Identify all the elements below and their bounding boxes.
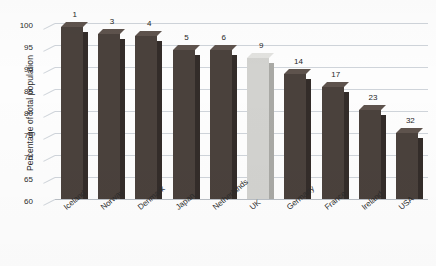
- y-axis-tick-label: 100: [7, 21, 33, 30]
- bar-top-face: [322, 82, 349, 87]
- y-axis-tick-label: 90: [7, 65, 33, 74]
- bar: [322, 87, 344, 199]
- bar-value-label: 1: [60, 10, 90, 19]
- bar-top-face: [61, 22, 88, 27]
- y-axis-tick-label: 85: [7, 87, 33, 96]
- bar-top-face: [135, 31, 162, 36]
- bar: [173, 50, 195, 199]
- bar-top-face: [247, 53, 274, 58]
- y-axis-tick-label: 65: [7, 175, 33, 184]
- axis-tick-stub: [43, 111, 55, 118]
- bar: [135, 36, 157, 199]
- bar: [61, 27, 83, 199]
- bar-value-label: 3: [97, 17, 127, 26]
- bar: [98, 34, 120, 199]
- bar: [359, 110, 381, 199]
- bar: [396, 133, 418, 199]
- bar-front-face: [98, 34, 120, 199]
- axis-tick-stub: [43, 177, 55, 184]
- bar-side-face: [232, 55, 237, 199]
- bar-front-face: [247, 58, 269, 199]
- axis-tick-stub: [43, 199, 55, 206]
- bar-side-face: [157, 41, 162, 199]
- bar-chart: Percentage of total population 100959085…: [0, 0, 436, 266]
- bar-front-face: [210, 50, 232, 199]
- bar-front-face: [61, 27, 83, 199]
- y-axis-tick-label: 75: [7, 131, 33, 140]
- bar-value-label: 32: [395, 116, 425, 125]
- bar-value-label: 14: [283, 57, 313, 66]
- bar-side-face: [195, 55, 200, 199]
- axis-tick-stub: [43, 155, 55, 162]
- y-axis-tick-label: 60: [7, 197, 33, 206]
- bar-value-label: 23: [358, 93, 388, 102]
- bar-side-face: [418, 138, 423, 199]
- bar-front-face: [173, 50, 195, 199]
- axis-tick-stub: [43, 133, 55, 140]
- bar-value-label: 5: [172, 33, 202, 42]
- bar-side-face: [83, 32, 88, 199]
- bar-value-label: 17: [321, 70, 351, 79]
- axis-tick-stub: [43, 23, 55, 30]
- y-axis-tick-label: 95: [7, 43, 33, 52]
- axis-tick-stub: [43, 45, 55, 52]
- bar: [210, 50, 232, 199]
- bar-top-face: [210, 45, 237, 50]
- axis-tick-stub: [43, 89, 55, 96]
- axis-tick-stub: [43, 67, 55, 74]
- bar-top-face: [98, 29, 125, 34]
- bar-top-face: [284, 69, 311, 74]
- bar-side-face: [269, 63, 274, 199]
- bar-side-face: [306, 79, 311, 199]
- bar-value-label: 6: [209, 33, 239, 42]
- bar-top-face: [359, 105, 386, 110]
- bar-front-face: [284, 74, 306, 199]
- bar-value-label: 9: [246, 41, 276, 50]
- bar-front-face: [322, 87, 344, 199]
- bar: [247, 58, 269, 199]
- bar-side-face: [381, 115, 386, 199]
- y-axis-tick-label: 70: [7, 153, 33, 162]
- bar: [284, 74, 306, 199]
- bar-front-face: [135, 36, 157, 199]
- bar-top-face: [173, 45, 200, 50]
- bar-front-face: [396, 133, 418, 199]
- bar-value-label: 4: [134, 19, 164, 28]
- bar-side-face: [120, 39, 125, 199]
- plot-area: 1009590858075706560 13456914172332: [55, 23, 428, 199]
- bar-side-face: [344, 92, 349, 199]
- bar-front-face: [359, 110, 381, 199]
- y-axis-tick-label: 80: [7, 109, 33, 118]
